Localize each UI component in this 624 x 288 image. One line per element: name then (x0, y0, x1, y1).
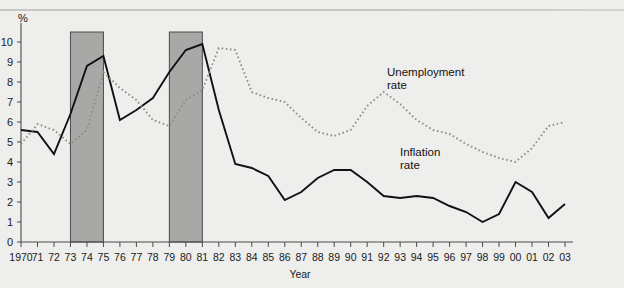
y-axis-labels-group: 012345678910 (1, 36, 13, 248)
x-axis-tick-label: 89 (328, 251, 340, 263)
y-axis-tick-label: 1 (7, 216, 13, 228)
x-axis-tick-label: 71 (32, 251, 44, 263)
recession-band-2 (169, 32, 202, 242)
x-axis-tick-label: 01 (526, 251, 538, 263)
x-axis-tick-label: 80 (180, 251, 192, 263)
y-axis-tick-label: 7 (7, 96, 13, 108)
y-axis-ticks-group (17, 42, 21, 242)
y-axis-tick-label: 5 (7, 136, 13, 148)
y-axis-tick-label: 4 (7, 156, 13, 168)
x-axis-tick-label: 94 (411, 251, 423, 263)
chart-figure: 012345678910 197071727374757677787980818… (0, 0, 624, 288)
x-axis-tick-label: 85 (262, 251, 274, 263)
unemployment-series-label-line1: Unemployment (387, 66, 465, 78)
x-axis-tick-label: 76 (114, 251, 126, 263)
y-axis-unit-label: % (18, 12, 28, 24)
x-axis-tick-label: 73 (65, 251, 77, 263)
x-axis-tick-label: 75 (98, 251, 110, 263)
x-axis-tick-label: 97 (460, 251, 472, 263)
x-axis-tick-label: 87 (295, 251, 307, 263)
y-axis-tick-label: 8 (7, 76, 13, 88)
x-axis-ticks-group (21, 242, 565, 247)
x-axis-tick-label: 93 (394, 251, 406, 263)
x-axis-labels-group: 1970717273747576777879808182838485868788… (9, 251, 571, 263)
x-axis-tick-label: 83 (229, 251, 241, 263)
x-axis-tick-label: 79 (164, 251, 176, 263)
inflation-series-label-line1: Inflation (400, 146, 440, 158)
y-axis-tick-label: 2 (7, 196, 13, 208)
x-axis-title: Year (289, 268, 311, 280)
x-axis-tick-label: 77 (131, 251, 143, 263)
x-axis-tick-label: 88 (312, 251, 324, 263)
unemployment-series-label-line2: rate (387, 79, 407, 91)
x-axis-tick-label: 98 (477, 251, 489, 263)
x-axis-tick-label: 82 (213, 251, 225, 263)
y-axis-tick-label: 0 (7, 236, 13, 248)
x-axis-tick-label: 74 (81, 251, 93, 263)
y-axis-tick-label: 6 (7, 116, 13, 128)
line-chart-canvas: 012345678910 197071727374757677787980818… (0, 0, 624, 288)
x-axis-tick-label: 91 (361, 251, 373, 263)
x-axis-tick-label: 92 (378, 251, 390, 263)
x-axis-tick-label: 78 (147, 251, 159, 263)
x-axis-tick-label: 81 (196, 251, 208, 263)
x-axis-tick-label: 03 (559, 251, 571, 263)
y-axis-tick-label: 9 (7, 56, 13, 68)
y-axis-tick-label: 3 (7, 176, 13, 188)
x-axis-tick-label: 00 (510, 251, 522, 263)
x-axis-tick-label: 90 (345, 251, 357, 263)
x-axis-tick-label: 72 (48, 251, 60, 263)
recession-band-1 (70, 32, 103, 242)
x-axis-tick-label: 86 (279, 251, 291, 263)
y-axis-tick-label: 10 (1, 36, 13, 48)
x-axis-tick-label: 96 (444, 251, 456, 263)
x-axis-tick-label: 02 (543, 251, 555, 263)
x-axis-tick-label: 1970 (9, 251, 33, 263)
x-axis-tick-label: 95 (427, 251, 439, 263)
x-axis-tick-label: 99 (493, 251, 505, 263)
inflation-series-label-line2: rate (400, 159, 420, 171)
x-axis-tick-label: 84 (246, 251, 258, 263)
